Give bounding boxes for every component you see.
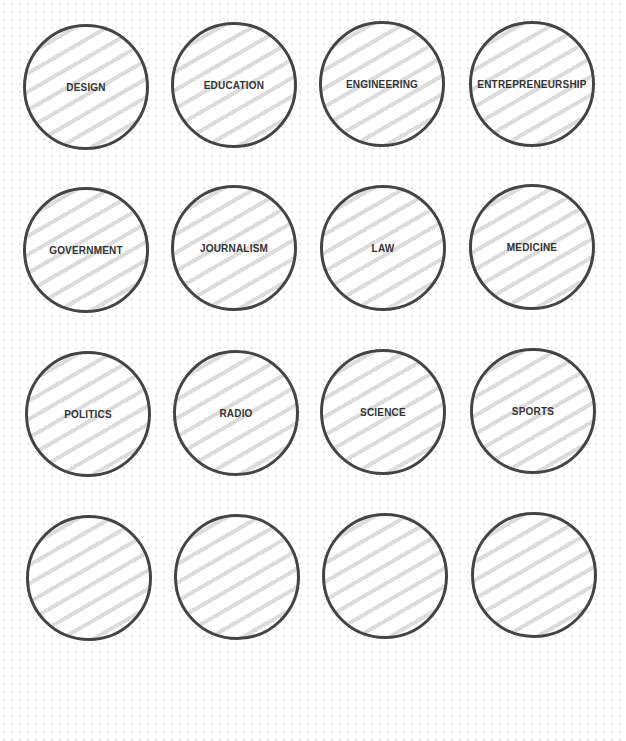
topic-bubble-science[interactable]: SCIENCE bbox=[320, 349, 446, 475]
topic-bubble-grid: DESIGN EDUCATION ENGINEERING ENTREPRENEU… bbox=[0, 0, 626, 741]
bubble-label: EDUCATION bbox=[204, 80, 265, 91]
topic-bubble-education[interactable]: EDUCATION bbox=[171, 22, 297, 148]
topic-bubble-law[interactable]: LAW bbox=[320, 185, 446, 311]
topic-bubble-medicine[interactable]: MEDICINE bbox=[469, 184, 595, 310]
topic-bubble-empty-2[interactable] bbox=[174, 514, 300, 640]
bubble-label: ENGINEERING bbox=[346, 79, 418, 90]
topic-bubble-empty-4[interactable] bbox=[471, 512, 597, 638]
topic-bubble-empty-3[interactable] bbox=[322, 513, 448, 639]
topic-bubble-entrepreneurship[interactable]: ENTREPRENEURSHIP bbox=[469, 21, 595, 147]
bubble-label: GOVERNMENT bbox=[49, 245, 123, 256]
topic-bubble-design[interactable]: DESIGN bbox=[23, 24, 149, 150]
bubble-label: ENTREPRENEURSHIP bbox=[477, 79, 586, 90]
bubble-label: POLITICS bbox=[64, 409, 112, 420]
topic-bubble-government[interactable]: GOVERNMENT bbox=[23, 187, 149, 313]
topic-bubble-sports[interactable]: SPORTS bbox=[470, 348, 596, 474]
topic-bubble-radio[interactable]: RADIO bbox=[173, 350, 299, 476]
bubble-label: SCIENCE bbox=[360, 407, 406, 418]
bubble-label: SPORTS bbox=[512, 406, 554, 417]
topic-bubble-politics[interactable]: POLITICS bbox=[25, 351, 151, 477]
topic-bubble-empty-1[interactable] bbox=[26, 515, 152, 641]
bubble-label: RADIO bbox=[219, 408, 252, 419]
bubble-label: JOURNALISM bbox=[200, 243, 268, 254]
topic-bubble-engineering[interactable]: ENGINEERING bbox=[319, 21, 445, 147]
bubble-label: LAW bbox=[372, 243, 395, 254]
bubble-label: MEDICINE bbox=[507, 242, 558, 253]
bubble-label: DESIGN bbox=[66, 82, 106, 93]
topic-bubble-journalism[interactable]: JOURNALISM bbox=[171, 185, 297, 311]
